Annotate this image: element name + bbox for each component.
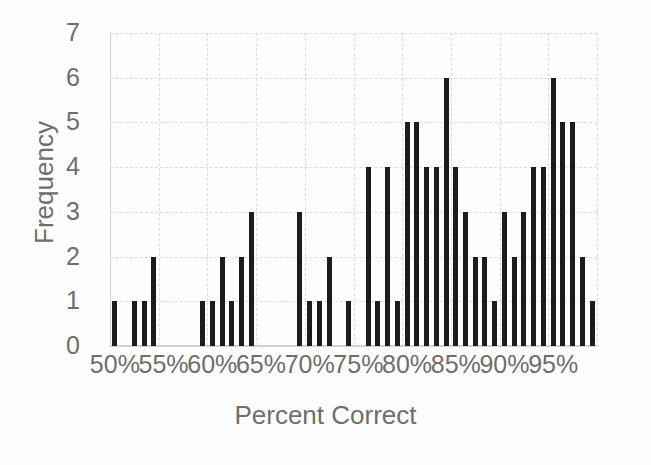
histogram-bar [463, 212, 468, 346]
histogram-bar [220, 257, 225, 346]
y-tick-label-6: 6 [56, 65, 80, 90]
histogram-bar [317, 301, 322, 346]
histogram-bar [229, 301, 234, 346]
histogram-bar [434, 167, 439, 346]
x-axis-title: Percent Correct [0, 400, 651, 431]
x-tick-label-50: 50% [90, 352, 140, 377]
histogram-bar [590, 301, 595, 346]
histogram-chart: Frequency 01234567 50%55%60%65%70%75%80%… [0, 0, 651, 465]
histogram-bar [531, 167, 536, 346]
gridline-x-100 [597, 33, 598, 346]
x-tick-label-65: 65% [236, 352, 286, 377]
histogram-bar [142, 301, 147, 346]
histogram-bar [132, 301, 137, 346]
histogram-bar [453, 167, 458, 346]
x-tick-label-95: 95% [528, 352, 578, 377]
y-tick-label-0: 0 [56, 333, 80, 358]
histogram-bar [541, 167, 546, 346]
histogram-bar [385, 167, 390, 346]
histogram-bar [239, 257, 244, 346]
histogram-bar [502, 212, 507, 346]
histogram-bar [482, 257, 487, 346]
plot-area [110, 33, 597, 346]
histogram-bar [424, 167, 429, 346]
histogram-bar [580, 257, 585, 346]
y-tick-label-7: 7 [56, 20, 80, 45]
histogram-bar [570, 122, 575, 346]
histogram-bar [395, 301, 400, 346]
x-tick-label-80: 80% [382, 352, 432, 377]
histogram-bar [366, 167, 371, 346]
histogram-bar [200, 301, 205, 346]
histogram-bar [307, 301, 312, 346]
y-tick-label-3: 3 [56, 199, 80, 224]
histogram-bar [444, 78, 449, 346]
histogram-bar [551, 78, 556, 346]
y-tick-label-1: 1 [56, 288, 80, 313]
bars-layer [110, 33, 597, 346]
histogram-bar [375, 301, 380, 346]
gridline-y-0 [110, 346, 597, 347]
histogram-bar [249, 212, 254, 346]
x-tick-label-75: 75% [333, 352, 383, 377]
x-tick-label-85: 85% [431, 352, 481, 377]
histogram-bar [414, 122, 419, 346]
histogram-bar [405, 122, 410, 346]
histogram-bar [473, 257, 478, 346]
histogram-bar [112, 301, 117, 346]
histogram-bar [297, 212, 302, 346]
y-axis-tick-labels: 01234567 [52, 0, 80, 465]
histogram-bar [512, 257, 517, 346]
x-tick-label-70: 70% [285, 352, 335, 377]
y-tick-label-5: 5 [56, 109, 80, 134]
y-tick-label-2: 2 [56, 244, 80, 269]
histogram-bar [346, 301, 351, 346]
histogram-bar [210, 301, 215, 346]
histogram-bar [151, 257, 156, 346]
x-axis-tick-labels: 50%55%60%65%70%75%80%85%90%95% [110, 352, 597, 386]
x-tick-label-60: 60% [187, 352, 237, 377]
histogram-bar [560, 122, 565, 346]
histogram-bar [521, 212, 526, 346]
histogram-bar [327, 257, 332, 346]
x-tick-label-55: 55% [139, 352, 189, 377]
histogram-bar [492, 301, 497, 346]
y-tick-label-4: 4 [56, 154, 80, 179]
x-tick-label-90: 90% [479, 352, 529, 377]
